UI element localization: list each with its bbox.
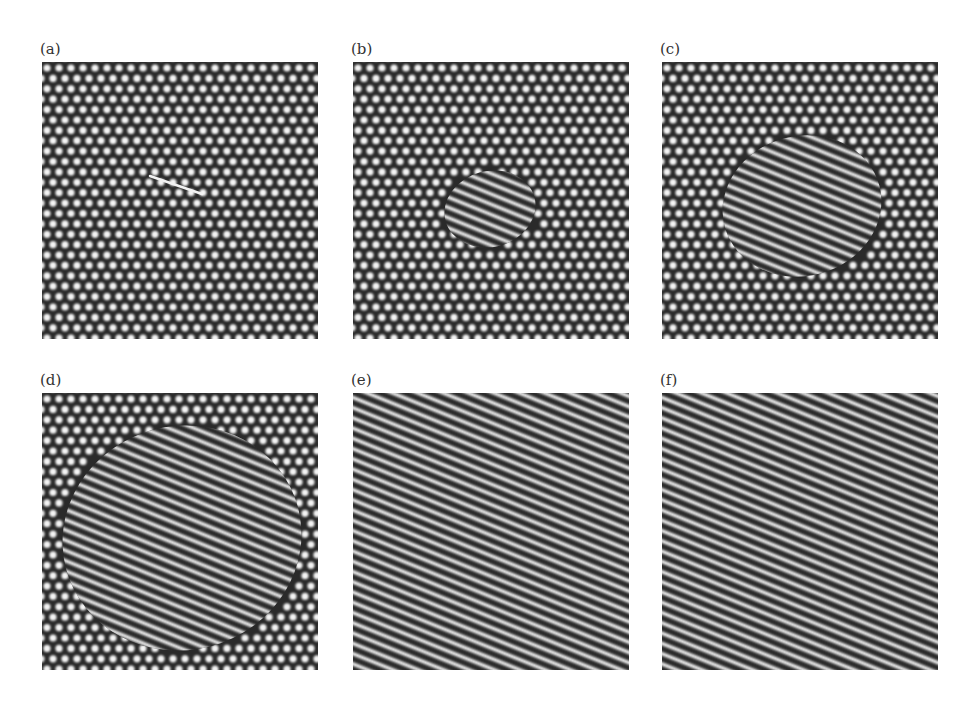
panel-label-d: (d)	[40, 373, 61, 388]
panel-label-f: (f)	[660, 373, 677, 388]
pattern-canvas	[353, 62, 629, 339]
stripe-domain	[353, 393, 629, 670]
figure-pattern-transition: (a) (b) (c) (d) (e) (f)	[0, 0, 972, 703]
panel-e-image	[353, 393, 629, 670]
panel-f-image	[662, 393, 938, 670]
panel-label-e: (e)	[351, 373, 372, 388]
panel-label-b: (b)	[351, 42, 372, 57]
panel-a-image	[42, 62, 318, 339]
panel-label-a: (a)	[40, 42, 61, 57]
pattern-canvas	[42, 393, 318, 670]
pattern-canvas	[662, 393, 938, 670]
pattern-canvas	[662, 62, 938, 339]
panel-c-image	[662, 62, 938, 339]
panel-label-c: (c)	[660, 42, 680, 57]
stripe-domain	[662, 393, 938, 670]
panel-b-image	[353, 62, 629, 339]
pattern-canvas	[353, 393, 629, 670]
panel-d-image	[42, 393, 318, 670]
pattern-canvas	[42, 62, 318, 339]
